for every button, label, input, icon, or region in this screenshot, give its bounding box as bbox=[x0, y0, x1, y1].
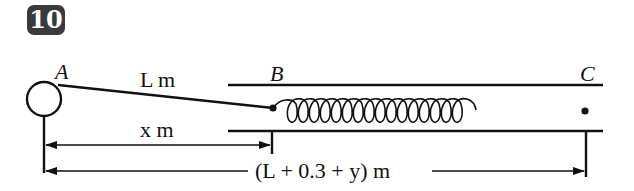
ball-a bbox=[27, 82, 61, 116]
spring bbox=[273, 99, 476, 122]
label-string-length: L m bbox=[140, 67, 175, 92]
label-distance-total: (L + 0.3 + y) m bbox=[255, 158, 390, 183]
spring-diagram: A L m B C x m (L + 0.3 + y) m bbox=[0, 0, 634, 191]
point-b-dot bbox=[269, 104, 276, 111]
label-distance-x: x m bbox=[140, 117, 174, 142]
label-point-a: A bbox=[53, 59, 69, 84]
point-c-dot bbox=[581, 107, 588, 114]
label-point-c: C bbox=[580, 61, 595, 86]
label-point-b: B bbox=[270, 61, 283, 86]
